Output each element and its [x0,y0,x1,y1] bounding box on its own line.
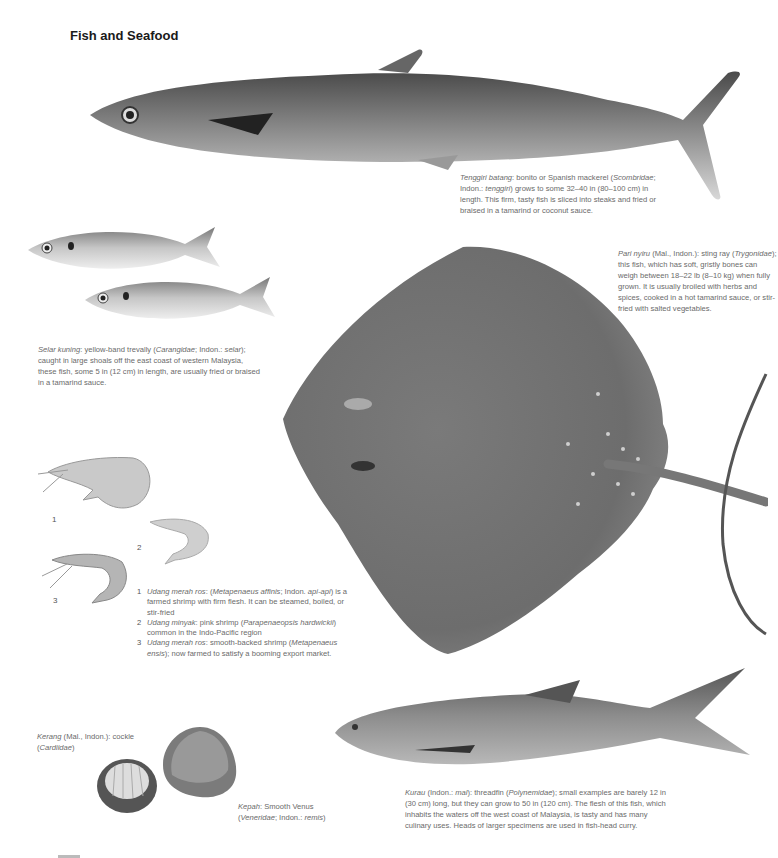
cockle-shell-photo [95,756,160,816]
caption-kurau: Kurau (Indon.: mal): threadfin (Polynemi… [405,787,675,831]
smooth-venus-shell-photo [160,725,240,800]
shrimp-caption-1: 1 Udang merah ros: (Metapenaeus affinis;… [137,587,357,618]
shrimp-caption-2: 2 Udang minyak: pink shrimp (Parapenaeop… [137,618,357,639]
caption-tenggiri-batang: Tenggiri batang: bonito or Spanish macke… [460,172,670,216]
shrimp-label-1: 1 [52,515,56,524]
page-title: Fish and Seafood [70,28,178,43]
caption-kepah: Kepah: Smooth Venus (Veneridae; Indon.: … [238,801,348,823]
caption-kerang: Kerang (Mal., Indon.): cockle (Cardiidae… [37,731,167,753]
shrimp-caption-3: 3 Udang merah ros: smooth-backed shrimp … [137,638,357,659]
threadfin-photo [330,663,760,778]
caption-selar-kuning: Selar kuning: yellow-band trevally (Cara… [38,344,263,388]
shrimp-caption-list: 1 Udang merah ros: (Metapenaeus affinis;… [137,587,357,659]
caption-pari-nyiru: Pari nyiru (Mal., Indon.): sting ray (Tr… [618,248,778,314]
shrimp-label-3: 3 [53,596,57,605]
yellow-band-trevally-photo [25,222,280,332]
shrimp-1-photo [38,452,158,514]
shrimp-label-2: 2 [137,543,141,552]
shrimp-2-photo [145,512,215,567]
